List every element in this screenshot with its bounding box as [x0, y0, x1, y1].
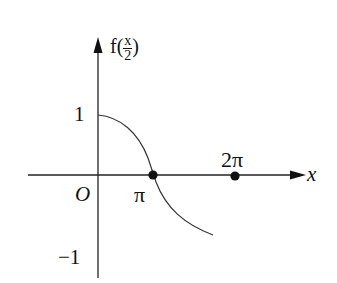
fraction-denominator: 2 [124, 49, 131, 63]
y-tick-one: 1 [74, 104, 85, 125]
y-tick-neg-one: −1 [58, 247, 80, 268]
x-axis-arrow-icon [290, 171, 306, 180]
point-two-pi [230, 171, 239, 180]
x-tick-two-pi: 2π [221, 149, 243, 171]
x-axis-label: x [307, 164, 316, 185]
fraction-numerator: x [123, 34, 132, 49]
point-pi [148, 170, 157, 179]
origin-label: O [75, 184, 90, 205]
x-tick-pi: π [134, 184, 145, 206]
y-label-close: ) [132, 35, 139, 57]
function-graph [0, 0, 337, 283]
y-label-fraction: x2 [123, 34, 132, 63]
y-axis-label: f(x2) [110, 34, 139, 63]
y-axis-arrow-icon [94, 37, 103, 53]
y-label-func: f( [110, 35, 123, 57]
